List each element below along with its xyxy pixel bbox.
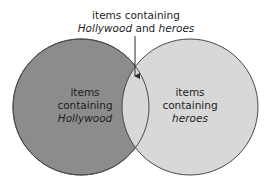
set-heroes-label: items containing heroes [162,86,217,125]
set-hollywood-label: items containing Hollywood [57,86,112,125]
intersection-label: items containing Hollywood and heroes [78,9,195,35]
venn-diagram: items containing Hollywood and heroes it… [0,0,271,184]
set-heroes-line1: items [162,86,217,99]
term-hollywood: Hollywood [78,22,132,34]
set-hollywood-line1: items [57,86,112,99]
set-heroes-line2: containing [162,99,217,112]
term-heroes: heroes [159,22,195,34]
set-heroes-term: heroes [162,112,217,125]
set-hollywood-term: Hollywood [57,112,112,125]
connector-and: and [132,22,158,34]
intersection-label-line2: Hollywood and heroes [78,22,195,35]
intersection-label-line1: items containing [78,9,195,22]
set-hollywood-line2: containing [57,99,112,112]
